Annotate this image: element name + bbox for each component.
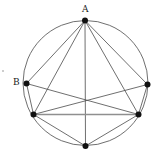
point-e	[136, 112, 142, 118]
chord-a-f	[85, 21, 86, 147]
geometry-canvas	[0, 0, 160, 160]
point-b	[24, 81, 30, 87]
point-a	[82, 18, 88, 24]
geometry-figure: A B	[0, 0, 160, 160]
chord-b-e	[27, 84, 139, 115]
stray-mark	[2, 70, 4, 72]
point-f	[83, 143, 89, 149]
point-d	[31, 112, 37, 118]
chord-e-f	[86, 115, 139, 147]
chord-b-d	[27, 84, 34, 115]
point-c	[145, 82, 151, 88]
point-label-a: A	[82, 5, 89, 14]
chord-d-f	[34, 115, 86, 147]
point-label-b: B	[13, 78, 20, 87]
stray-mark-group	[2, 70, 4, 72]
